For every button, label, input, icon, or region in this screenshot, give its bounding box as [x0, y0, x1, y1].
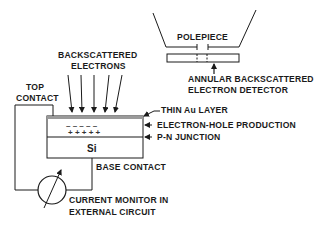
au-layer-pointer	[144, 111, 160, 116]
top-contact-label-line2: CONTACT	[16, 93, 59, 103]
monitor-label-line1: CURRENT MONITOR IN	[69, 195, 168, 205]
eh-production-label: ELECTRON-HOLE PRODUCTION	[157, 120, 296, 130]
au-layer-label: THIN Au LAYER	[161, 105, 228, 115]
monitor-label-line2: EXTERNAL CIRCUIT	[69, 207, 156, 217]
polepiece-label: POLEPIECE	[177, 32, 228, 42]
bse-label-line1: BACKSCATTERED	[58, 50, 137, 60]
current-meter-icon	[38, 170, 66, 208]
base-contact-label: BASE CONTACT	[96, 162, 167, 172]
polepiece	[153, 10, 256, 50]
top-contact-label-line1: TOP	[26, 82, 44, 92]
bse-arrows	[68, 75, 122, 112]
si-label: Si	[87, 143, 97, 154]
plus-charges: + + + + +	[68, 128, 101, 137]
pn-junction-label: P-N JUNCTION	[157, 132, 221, 142]
bse-label-line2: ELECTRONS	[71, 61, 126, 71]
au-layer	[47, 116, 143, 119]
detector-label-line1: ANNULAR BACKSCATTERED	[188, 74, 314, 84]
detector-label-line2: ELECTRON DETECTOR	[188, 85, 289, 95]
detector-diagram: POLEPIECE ANNULAR BACKSCATTERED ELECTRON…	[0, 0, 330, 231]
annular-detector	[167, 54, 239, 62]
